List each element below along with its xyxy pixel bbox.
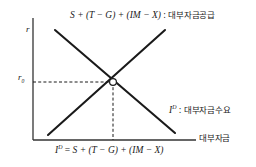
equilibrium-condition-label: ID = S + (T − G) + (IM − X) (55, 146, 163, 156)
x-axis-label: 대부자금 (199, 134, 230, 143)
equilibrium-point-marker (110, 79, 117, 86)
y-axis-label: r (26, 25, 30, 34)
equilibrium-rate-subscript: 0 (22, 78, 25, 84)
demand-curve-label: ID : 대부자금수요 (169, 106, 231, 116)
demand-separator: : (176, 105, 183, 115)
equilibrium-equals: = (62, 145, 72, 155)
supply-korean-label: 대부자금공급 (168, 10, 215, 20)
supply-curve-label: S + (T − G) + (IM − X) : 대부자금공급 (70, 11, 215, 21)
equilibrium-rate-label: r0 (18, 73, 24, 82)
loanable-funds-figure: r r0 대부자금 S + (T − G) + (IM − X) : 대부자금공… (0, 0, 256, 167)
demand-korean-label: 대부자금수요 (184, 105, 231, 115)
equilibrium-formula: S + (T − G) + (IM − X) (73, 145, 164, 155)
supply-formula: S + (T − G) + (IM − X) (70, 10, 161, 20)
